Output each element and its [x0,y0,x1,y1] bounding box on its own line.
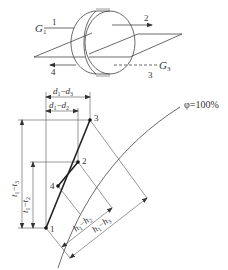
t1-t3-label: t1−t3 [9,181,20,197]
rotary-wheel: G1 1 2 4 G3 3 [34,9,182,80]
process-line-4-2 [58,162,78,186]
saturation-curve [58,107,180,268]
separation-plane [34,33,182,57]
state-point-1 [44,226,48,230]
state-point-4 [56,184,60,188]
d1-d3-label: d1−d3 [53,86,73,97]
point-1-label: 1 [50,224,55,234]
state-point-3 [88,118,92,122]
stream-2-label: 2 [144,13,149,23]
h1-h3-label: h1−h3 [90,214,113,235]
stream-1-label: 1 [52,17,57,27]
g1-label: G1 [35,22,47,36]
psychrometric-chart: d1−d3 d1−d2 t1−t3 t1−t2 h1−h2 h1−h3 φ=10… [9,86,219,268]
g3-label: G3 [159,59,171,73]
stream-3-label: 3 [148,70,153,80]
stream-4-label: 4 [51,67,56,77]
heat-wheel-diagram: G1 1 2 4 G3 3 d1−d3 d1−d2 t1−t3 t1−t [0,0,228,270]
point-2-label: 2 [82,156,87,166]
wheel-face [85,11,135,74]
point-3-label: 3 [94,113,99,123]
state-point-2 [76,160,80,164]
point-4-label: 4 [50,181,55,191]
saturation-curve-label: φ=100% [184,99,219,110]
d1-d2-label: d1−d2 [49,100,69,111]
t1-t2-label: t1−t2 [20,197,31,213]
